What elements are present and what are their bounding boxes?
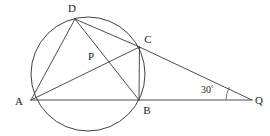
segment-AD	[31, 19, 75, 100]
point-label-B: B	[143, 104, 150, 116]
point-label-C: C	[144, 33, 151, 45]
degree-symbol: °	[211, 84, 214, 91]
circumcircle	[31, 17, 145, 131]
geometry-canvas: A B C D P Q 30°	[0, 0, 270, 136]
point-label-A: A	[15, 95, 23, 107]
point-label-Q: Q	[255, 94, 263, 106]
point-label-D: D	[68, 2, 76, 14]
segment-AC	[31, 47, 140, 100]
segment-CB	[139, 47, 140, 100]
segment-CQ	[140, 47, 253, 100]
angle-label-q: 30°	[201, 84, 214, 96]
segment-DC	[75, 19, 140, 47]
segment-DB	[75, 19, 139, 100]
point-label-P: P	[88, 50, 94, 62]
geometry-figure: A B C D P Q 30°	[0, 0, 270, 136]
angle-value: 30	[201, 84, 211, 95]
